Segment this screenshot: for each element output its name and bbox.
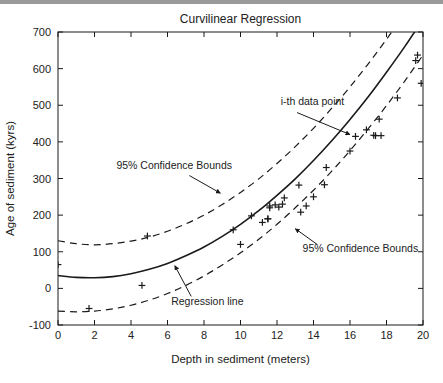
y-tick-label: -100 — [29, 319, 51, 331]
annotation-ith-data-point-arrow — [297, 113, 350, 135]
data-point-marker — [86, 305, 93, 312]
x-tick-label: 6 — [164, 329, 170, 341]
x-tick-label: 16 — [344, 329, 356, 341]
annotation-lower-bounds-text: 95% Confidence Bounds — [303, 242, 419, 254]
data-point-marker — [264, 215, 271, 222]
data-point-marker — [323, 164, 330, 171]
regression-line-curve — [58, 19, 423, 278]
data-point-group — [55, 52, 425, 312]
x-axis-label: Depth in sediment (meters) — [171, 353, 310, 365]
annotation-regression-line-text: Regression line — [171, 295, 244, 307]
x-tick-label: 18 — [380, 329, 392, 341]
x-tick-label: 8 — [201, 329, 207, 341]
y-tick-label: 600 — [33, 63, 51, 75]
annotation-upper-bounds-text: 95% Confidence Bounds — [116, 159, 232, 171]
data-point-marker — [321, 181, 328, 188]
data-point-marker — [296, 182, 303, 189]
data-point-marker — [139, 282, 146, 289]
confidence-bound-curve — [58, 55, 423, 312]
data-point-marker — [55, 261, 62, 268]
data-point-marker — [418, 80, 425, 87]
data-point-marker — [310, 193, 317, 200]
data-point-marker — [281, 195, 288, 202]
annotation-regression-line-arrow — [175, 266, 191, 297]
y-tick-label: 100 — [33, 246, 51, 258]
y-tick-label: 300 — [33, 173, 51, 185]
y-axis-label: Age of sediment (kyrs) — [4, 121, 16, 236]
data-point-marker — [303, 203, 310, 210]
curvilinear-regression-chart: 02468101214161820-1000100200300400500600… — [0, 0, 443, 383]
annotation-ith-data-point-text: i-th data point — [281, 95, 345, 107]
plot-frame — [58, 32, 423, 325]
data-point-marker — [394, 95, 401, 102]
x-tick-label: 2 — [91, 329, 97, 341]
x-tick-label: 0 — [55, 329, 61, 341]
y-tick-label: 700 — [33, 26, 51, 38]
x-tick-label: 10 — [234, 329, 246, 341]
figure-container: 02468101214161820-1000100200300400500600… — [0, 0, 443, 383]
data-point-marker — [376, 116, 383, 123]
y-tick-label: 0 — [45, 282, 51, 294]
y-tick-label: 500 — [33, 99, 51, 111]
y-tick-label: 400 — [33, 136, 51, 148]
data-point-marker — [352, 133, 359, 140]
data-point-marker — [259, 219, 266, 226]
chart-title: Curvilinear Regression — [180, 12, 301, 26]
x-tick-label: 14 — [307, 329, 319, 341]
x-tick-label: 4 — [128, 329, 134, 341]
annotation-upper-bounds-arrow — [189, 176, 220, 194]
data-point-marker — [297, 209, 304, 216]
y-tick-label: 200 — [33, 209, 51, 221]
data-point-marker — [378, 132, 385, 139]
x-tick-label: 20 — [417, 329, 429, 341]
data-point-marker — [237, 241, 244, 248]
x-tick-label: 12 — [271, 329, 283, 341]
